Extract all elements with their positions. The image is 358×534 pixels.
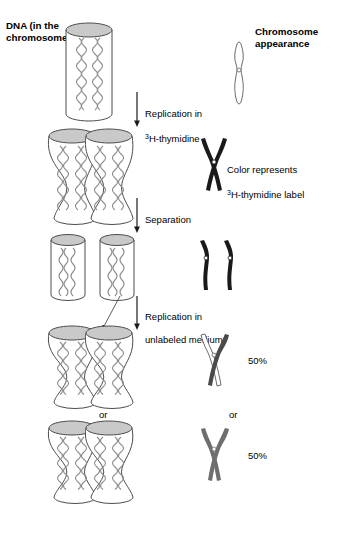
stage-1-chromosome-unlabeled — [235, 42, 244, 104]
step-label-line1: Replication in — [145, 108, 202, 119]
step-label-line1: Replication in — [145, 311, 202, 322]
percent-label-top: 50% — [248, 355, 267, 367]
stage-4b-chromosome-half-labeled — [201, 428, 229, 481]
step-label-replication-h3: Replication in 3H-thymidine — [145, 96, 202, 144]
step-label-line2: unlabeled medium — [145, 334, 223, 345]
diagram-graphics — [0, 0, 358, 534]
arrow-diagonal-connector — [103, 296, 120, 328]
figure-root: DNA (in the chromosome) Chromosome appea… — [0, 0, 358, 534]
annotation-color-represents: Color represents 3H-thymidine label — [227, 152, 304, 200]
annotation-line2: H-thymidine label — [231, 189, 304, 200]
annotation-line1: Color represents — [227, 164, 297, 175]
stage-4b-dna-cylinders — [48, 421, 133, 504]
stage-3-dna-cylinders — [51, 235, 134, 301]
page-title-right: Chromosome appearance — [255, 26, 318, 49]
stage-3-chromosomes-labeled — [200, 240, 233, 290]
or-label-right: or — [229, 409, 237, 421]
page-title-left: DNA (in the chromosome) — [6, 20, 71, 43]
step-label-separation: Separation — [145, 202, 191, 225]
step-label-line1: Separation — [145, 214, 191, 225]
stage-2-chromosome-both-labeled — [201, 138, 227, 191]
stage-2-dna-cylinders — [48, 129, 133, 225]
or-label-left: or — [99, 409, 107, 421]
step-label-replication-unlabeled: Replication in unlabeled medium — [145, 299, 223, 345]
percent-label-bottom: 50% — [248, 450, 267, 462]
stage-4a-dna-cylinders — [48, 326, 133, 409]
step-label-line2: H-thymidine — [149, 133, 200, 144]
stage-1-dna-cylinder — [66, 23, 112, 121]
